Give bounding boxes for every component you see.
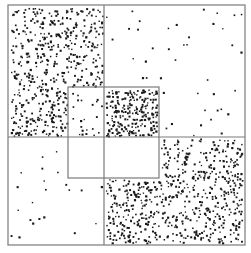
dot: [75, 38, 77, 40]
dot: [194, 237, 196, 239]
dot: [215, 216, 217, 218]
dot: [155, 107, 157, 109]
dot: [149, 242, 151, 244]
dot: [186, 44, 188, 46]
dot: [148, 221, 150, 223]
dot: [201, 201, 203, 203]
dot: [194, 231, 196, 233]
dot: [96, 31, 98, 33]
dot: [155, 223, 156, 224]
dot: [140, 109, 142, 111]
dot: [49, 133, 51, 135]
dot: [139, 194, 140, 195]
dot: [179, 152, 180, 153]
dot: [63, 72, 65, 74]
dot: [39, 86, 41, 88]
dot: [221, 240, 223, 242]
dot: [19, 132, 21, 134]
dot: [74, 75, 76, 77]
dot: [63, 79, 65, 81]
dot: [80, 120, 82, 122]
dot: [180, 212, 182, 214]
dot: [54, 20, 56, 22]
dot: [128, 227, 130, 229]
dot: [45, 74, 47, 76]
dot: [176, 234, 178, 236]
dot: [19, 95, 21, 97]
dot: [197, 193, 199, 195]
dot: [239, 178, 241, 180]
dot: [134, 194, 136, 196]
dot: [113, 121, 115, 123]
dot: [133, 184, 135, 186]
dot: [70, 40, 71, 41]
dot: [167, 154, 169, 156]
dot: [117, 231, 119, 233]
dot: [57, 88, 58, 89]
dot: [229, 209, 231, 211]
dot: [92, 73, 93, 74]
dot: [47, 89, 49, 91]
dot: [29, 8, 31, 10]
dot: [118, 216, 120, 218]
dot: [77, 79, 79, 81]
dot: [143, 193, 144, 194]
dot: [231, 191, 233, 193]
dot: [172, 196, 174, 198]
dot: [84, 119, 85, 120]
dot-density-canvas: [0, 0, 251, 253]
dot: [211, 148, 213, 150]
dot: [19, 102, 21, 104]
dot: [98, 33, 100, 35]
dot: [237, 176, 239, 178]
dot: [187, 235, 189, 237]
dot: [141, 99, 143, 101]
dot: [58, 109, 60, 111]
dot: [33, 8, 35, 10]
dot: [73, 106, 75, 108]
dot: [118, 91, 119, 92]
dot: [211, 167, 213, 169]
dot: [171, 185, 173, 187]
dot: [45, 89, 47, 91]
dot: [127, 94, 128, 96]
dot: [182, 150, 184, 152]
dot: [108, 229, 110, 231]
dot: [43, 39, 45, 41]
dot: [199, 161, 201, 163]
dot: [27, 121, 29, 123]
dot: [80, 126, 82, 128]
dot: [117, 96, 119, 98]
dot: [141, 119, 143, 121]
dot: [112, 93, 114, 95]
dot: [95, 60, 97, 62]
dot: [215, 181, 217, 183]
dot: [19, 81, 20, 82]
dot: [77, 95, 79, 97]
dot: [128, 236, 130, 238]
dot: [116, 130, 118, 132]
dot: [169, 157, 171, 159]
dot: [123, 203, 124, 204]
dot: [234, 90, 236, 92]
dot: [61, 135, 62, 136]
dot: [24, 21, 26, 23]
dot: [96, 47, 97, 48]
dot: [37, 117, 39, 119]
dot: [92, 128, 94, 130]
dot: [149, 199, 151, 201]
dot: [237, 203, 238, 204]
dot: [233, 192, 235, 194]
dot: [13, 62, 15, 64]
dot: [60, 96, 62, 98]
dot: [45, 101, 47, 103]
dot: [201, 232, 203, 234]
dot: [112, 218, 114, 220]
dot: [174, 176, 176, 178]
dot: [210, 237, 212, 239]
dot: [32, 78, 34, 80]
dot: [145, 61, 147, 63]
dot: [75, 26, 77, 28]
dot: [234, 14, 236, 16]
dot: [237, 234, 239, 236]
